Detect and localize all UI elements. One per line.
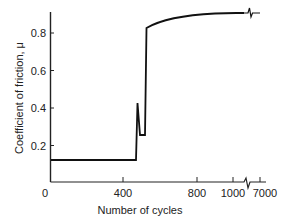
x-tick-label: 400 bbox=[114, 187, 132, 199]
friction-chart: 0.8 0.6 0.4 0.2 0 400 800 1000 7000 Numb… bbox=[0, 0, 289, 222]
x-tick-label: 0 bbox=[42, 187, 48, 199]
x-tick-label: 1000 bbox=[221, 187, 245, 199]
y-tick-label: 0.8 bbox=[31, 27, 46, 39]
curve-break-icon bbox=[244, 8, 260, 17]
y-tick-label: 0.2 bbox=[31, 140, 46, 152]
y-axis-title: Coefficient of friction, μ bbox=[13, 42, 25, 154]
x-tick-label: 7000 bbox=[253, 187, 277, 199]
x-ticks bbox=[123, 177, 260, 182]
y-tick-label: 0.4 bbox=[31, 102, 46, 114]
x-tick-label: 800 bbox=[188, 187, 206, 199]
friction-curve bbox=[51, 13, 244, 160]
x-axis-title: Number of cycles bbox=[98, 204, 183, 216]
y-tick-label: 0.6 bbox=[31, 65, 46, 77]
